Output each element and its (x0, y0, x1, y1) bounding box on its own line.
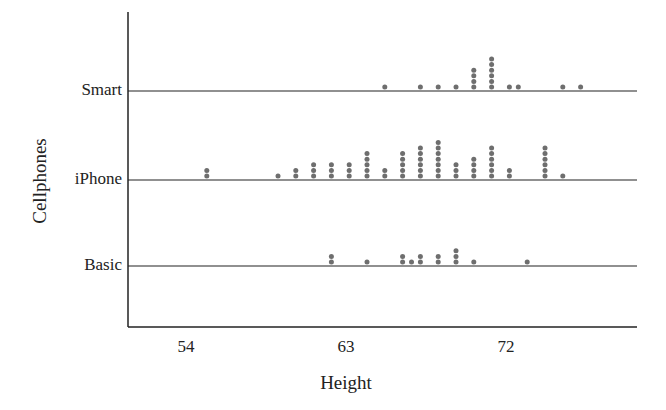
data-dot (471, 168, 476, 173)
data-dot (400, 174, 405, 179)
data-dot (418, 146, 423, 151)
data-dot (454, 248, 459, 253)
row-label-basic: Basic (84, 255, 122, 275)
data-dot (418, 254, 423, 259)
data-dot (409, 260, 414, 265)
data-dot (436, 254, 441, 259)
data-dot (382, 174, 387, 179)
data-dot (293, 168, 298, 173)
data-dot (347, 162, 352, 167)
data-dot (507, 85, 512, 90)
data-dot (311, 162, 316, 167)
data-dot (418, 157, 423, 162)
data-dot (365, 162, 370, 167)
data-dot (311, 168, 316, 173)
row-label-smart: Smart (81, 80, 122, 100)
data-dot (347, 168, 352, 173)
data-dot (454, 174, 459, 179)
data-dot (454, 168, 459, 173)
data-dot (436, 146, 441, 151)
data-dot (436, 140, 441, 145)
data-dot (543, 151, 548, 156)
data-dot (454, 260, 459, 265)
data-dot (436, 151, 441, 156)
data-dot (454, 162, 459, 167)
data-dot (400, 168, 405, 173)
data-dot (489, 151, 494, 156)
data-dot (489, 162, 494, 167)
data-dot (204, 174, 209, 179)
x-tick-63: 63 (338, 337, 355, 357)
y-axis-label: Cellphones (29, 131, 51, 231)
data-dot (400, 151, 405, 156)
data-dot (471, 85, 476, 90)
data-dot (543, 157, 548, 162)
data-dot (489, 85, 494, 90)
data-dot (471, 174, 476, 179)
data-dot (436, 174, 441, 179)
data-dot (489, 157, 494, 162)
data-dot (311, 174, 316, 179)
x-tick-54: 54 (178, 337, 195, 357)
data-dot (365, 174, 370, 179)
data-dot (543, 174, 548, 179)
data-dot (382, 168, 387, 173)
data-dot (329, 254, 334, 259)
data-dot (329, 168, 334, 173)
data-dot (471, 260, 476, 265)
data-dot (276, 174, 281, 179)
dotplot-chart (0, 0, 666, 410)
data-dot (418, 85, 423, 90)
data-dot (329, 260, 334, 265)
data-dot (471, 68, 476, 73)
data-dot (560, 85, 565, 90)
data-dot (471, 73, 476, 78)
data-dot (382, 85, 387, 90)
data-dot (543, 168, 548, 173)
data-dot (329, 174, 334, 179)
data-dot (454, 85, 459, 90)
data-dot (436, 260, 441, 265)
data-dot (507, 174, 512, 179)
data-dot (365, 168, 370, 173)
data-dot (418, 162, 423, 167)
data-dot (543, 162, 548, 167)
data-dot (418, 168, 423, 173)
data-dot (204, 168, 209, 173)
data-dot (489, 174, 494, 179)
data-dot (489, 57, 494, 62)
data-dot (418, 174, 423, 179)
data-dot (489, 79, 494, 84)
data-dot (489, 146, 494, 151)
data-dot (365, 157, 370, 162)
data-dot (293, 174, 298, 179)
data-dot (471, 157, 476, 162)
data-dot (471, 162, 476, 167)
data-dot (436, 162, 441, 167)
data-dot (365, 260, 370, 265)
data-dot (329, 162, 334, 167)
data-dot (347, 174, 352, 179)
x-tick-72: 72 (498, 337, 515, 357)
data-dot (400, 157, 405, 162)
data-dot (489, 68, 494, 73)
data-dot (436, 85, 441, 90)
data-dot (400, 162, 405, 167)
data-dot (454, 254, 459, 259)
data-dot (418, 151, 423, 156)
x-axis-label: Height (320, 372, 372, 394)
data-dot (489, 73, 494, 78)
data-dot (400, 254, 405, 259)
data-dot (400, 260, 405, 265)
data-dot (507, 168, 512, 173)
data-dot (560, 174, 565, 179)
data-dot (436, 168, 441, 173)
data-dot (525, 260, 530, 265)
data-dot (471, 79, 476, 84)
data-dot (418, 260, 423, 265)
data-dot (489, 168, 494, 173)
row-label-iphone: iPhone (75, 169, 122, 189)
data-dot (489, 62, 494, 67)
data-dot (578, 85, 583, 90)
data-dot (436, 157, 441, 162)
